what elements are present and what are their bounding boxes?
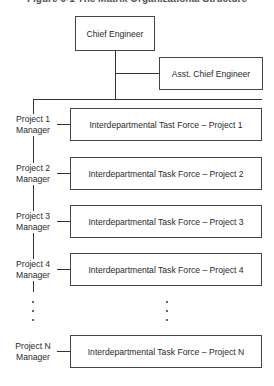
task-force-box: Interdepartmental Tast Force – Project 1 xyxy=(70,108,262,141)
ellipsis-dot xyxy=(32,310,34,312)
project-manager-label: Project 3Manager xyxy=(11,211,55,233)
task-force-box: Interdepartmental Task Force – Project N xyxy=(70,335,262,368)
ellipsis-dot xyxy=(166,319,168,321)
asst-chief-engineer-box: Asst. Chief Engineer xyxy=(159,57,263,90)
task-force-box: Interdepartmental Task Force – Project 4 xyxy=(70,253,262,286)
connector-main-horizontal xyxy=(33,99,262,100)
task-force-box: Interdepartmental Task Force – Project 2 xyxy=(70,157,262,190)
project-manager-label: Project 1Manager xyxy=(11,114,55,136)
ellipsis-dot xyxy=(166,301,168,303)
connector xyxy=(57,351,70,352)
figure-title: Figure 6-1 The Matrix Organizational Str… xyxy=(0,0,274,4)
task-force-box: Interdepartmental Task Force – Project 3 xyxy=(70,205,262,238)
connector-asst xyxy=(115,73,159,74)
project-manager-label: Project NManager xyxy=(11,341,55,363)
project-manager-label: Project 4Manager xyxy=(11,259,55,281)
connector xyxy=(57,124,70,125)
chief-engineer-box: Chief Engineer xyxy=(75,16,155,51)
ellipsis-dot xyxy=(166,310,168,312)
connector xyxy=(57,221,70,222)
connector xyxy=(57,173,70,174)
connector xyxy=(57,269,70,270)
ellipsis-dot xyxy=(32,319,34,321)
project-manager-label: Project 2Manager xyxy=(11,163,55,185)
connector-chief-vertical xyxy=(115,51,116,99)
ellipsis-dot xyxy=(32,301,34,303)
